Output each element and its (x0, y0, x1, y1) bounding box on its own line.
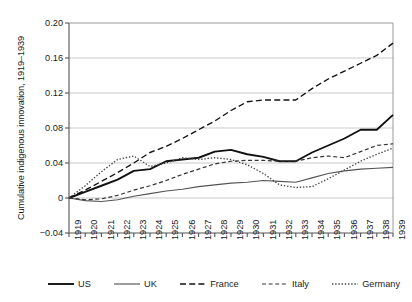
plot-canvas (0, 0, 412, 302)
legend-item-germany[interactable]: Germany (332, 279, 400, 289)
series-line-france (69, 43, 393, 198)
y-tick-label: 0.20 (29, 18, 63, 28)
x-tick-label: 1922 (122, 220, 132, 240)
legend-swatch-italy (262, 279, 288, 289)
legend-item-us[interactable]: US (48, 279, 91, 289)
x-tick-label: 1927 (203, 220, 213, 240)
x-tick-label: 1937 (365, 220, 375, 240)
legend-item-uk[interactable]: UK (114, 279, 157, 289)
x-tick-label: 1929 (235, 220, 245, 240)
x-tick-label: 1925 (170, 220, 180, 240)
x-tick-label: 1939 (397, 220, 407, 240)
y-tick-label: 0.12 (29, 88, 63, 98)
x-tick-label: 1938 (381, 220, 391, 240)
x-tick-label: 1930 (251, 220, 261, 240)
x-tick-label: 1924 (154, 220, 164, 240)
series-line-italy (69, 144, 393, 200)
chart-legend: USUKFranceItalyGermany (48, 276, 400, 292)
x-tick-label: 1935 (332, 220, 342, 240)
x-tick-label: 1921 (106, 220, 116, 240)
legend-swatch-uk (114, 279, 140, 289)
x-tick-label: 1919 (73, 220, 83, 240)
legend-swatch-france (180, 279, 206, 289)
x-tick-label: 1932 (284, 220, 294, 240)
y-tick-marks (65, 23, 69, 233)
series-line-us (69, 115, 393, 198)
data-series-layer (69, 43, 393, 201)
x-tick-label: 1936 (349, 220, 359, 240)
legend-item-italy[interactable]: Italy (262, 279, 309, 289)
legend-item-france[interactable]: France (180, 279, 239, 289)
y-tick-label: 0.08 (29, 123, 63, 133)
series-line-germany (69, 148, 393, 198)
y-tick-label: 0.04 (29, 158, 63, 168)
chart-figure: Cumulative indigenous innovation, 1919–1… (0, 0, 412, 302)
legend-swatch-germany (332, 279, 358, 289)
x-tick-label: 1933 (300, 220, 310, 240)
y-tick-label: −0.04 (29, 228, 63, 238)
y-tick-label: 0.16 (29, 53, 63, 63)
legend-label: US (78, 279, 91, 289)
legend-label: France (210, 279, 239, 289)
x-tick-label: 1928 (219, 220, 229, 240)
x-tick-label: 1923 (138, 220, 148, 240)
y-tick-label: 0 (29, 193, 63, 203)
legend-label: UK (144, 279, 157, 289)
legend-swatch-us (48, 279, 74, 289)
x-tick-label: 1926 (187, 220, 197, 240)
series-line-uk (69, 167, 393, 201)
legend-label: Germany (362, 279, 400, 289)
legend-label: Italy (292, 279, 309, 289)
x-tick-label: 1920 (89, 220, 99, 240)
x-tick-marks (69, 233, 393, 237)
gridlines (69, 58, 393, 198)
x-tick-label: 1931 (268, 220, 278, 240)
x-tick-label: 1934 (316, 220, 326, 240)
